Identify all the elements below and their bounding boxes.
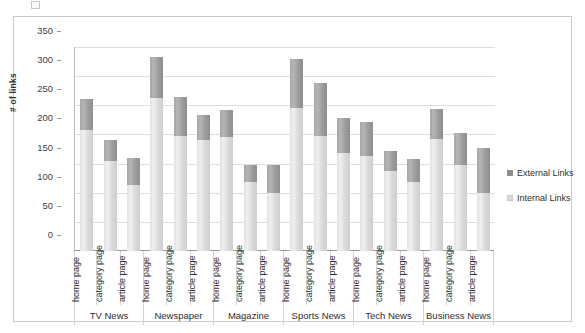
bar-segment-internal-links bbox=[267, 193, 280, 251]
bar-6 bbox=[220, 47, 233, 251]
x-axis-page-label: home page bbox=[211, 257, 221, 302]
bar-segment-external-links bbox=[454, 133, 467, 164]
bar-segment-internal-links bbox=[80, 130, 93, 251]
legend-entry[interactable]: External Links bbox=[507, 167, 585, 178]
bar-segment-internal-links bbox=[407, 182, 420, 251]
bar-segment-internal-links bbox=[104, 161, 117, 251]
x-axis-page-label: home page bbox=[141, 257, 151, 302]
bar-segment-external-links bbox=[337, 118, 350, 153]
legend-label: Internal Links bbox=[517, 193, 571, 203]
x-axis-group-label: Magazine bbox=[228, 310, 269, 321]
y-axis-tick-label: 200 bbox=[11, 113, 53, 123]
bar-segment-external-links bbox=[174, 97, 187, 136]
bar-16 bbox=[454, 47, 467, 251]
y-axis-tickmark bbox=[57, 235, 61, 236]
bar-0 bbox=[80, 47, 93, 251]
bar-segment-internal-links bbox=[127, 185, 140, 251]
x-axis-page-label: home page bbox=[281, 257, 291, 302]
bar-segment-internal-links bbox=[360, 156, 373, 251]
bar-segment-external-links bbox=[267, 165, 280, 192]
bar-segment-internal-links bbox=[314, 136, 327, 251]
bar-5 bbox=[197, 47, 210, 251]
x-axis-group-label: Business News bbox=[426, 310, 491, 321]
x-axis-page-label: category page bbox=[164, 245, 174, 302]
x-axis-page-label: home page bbox=[71, 257, 81, 302]
bar-segment-internal-links bbox=[430, 139, 443, 251]
x-axis-page-label: article page bbox=[327, 255, 337, 302]
bar-segment-external-links bbox=[314, 83, 327, 135]
y-axis-tickmark bbox=[57, 177, 61, 178]
y-axis-tick-label: 0 bbox=[11, 230, 53, 240]
x-axis-page-label: article page bbox=[187, 255, 197, 302]
bar-segment-internal-links bbox=[197, 140, 210, 251]
bar-segment-internal-links bbox=[174, 136, 187, 251]
bar-segment-external-links bbox=[244, 165, 257, 182]
y-axis-tick-label: 350 bbox=[11, 26, 53, 36]
y-axis-tick-label: 300 bbox=[11, 55, 53, 65]
y-axis-tickmark bbox=[57, 148, 61, 149]
bar-segment-internal-links bbox=[220, 137, 233, 251]
bar-segment-external-links bbox=[150, 57, 163, 98]
bar-segment-external-links bbox=[220, 110, 233, 137]
bar-segment-external-links bbox=[127, 158, 140, 185]
bar-segment-internal-links bbox=[150, 98, 163, 251]
bar-segment-external-links bbox=[80, 99, 93, 129]
bar-segment-internal-links bbox=[244, 182, 257, 251]
bar-segment-internal-links bbox=[477, 193, 490, 251]
bar-segment-external-links bbox=[360, 122, 373, 156]
y-axis-tick-label: 150 bbox=[11, 143, 53, 153]
bar-segment-external-links bbox=[407, 159, 420, 182]
y-axis-tickmark bbox=[57, 31, 61, 32]
bar-13 bbox=[384, 47, 397, 251]
x-axis-page-label: category page bbox=[94, 245, 104, 302]
bar-12 bbox=[360, 47, 373, 251]
bar-4 bbox=[174, 47, 187, 251]
x-axis-group-cell: Newspaper bbox=[144, 305, 214, 325]
bar-segment-internal-links bbox=[290, 108, 303, 251]
bar-2 bbox=[127, 47, 140, 251]
bar-segment-external-links bbox=[104, 140, 117, 160]
bar-segment-external-links bbox=[384, 151, 397, 171]
y-axis-tickmark bbox=[57, 118, 61, 119]
bar-segment-external-links bbox=[197, 115, 210, 140]
x-axis-group-cell: Sports News bbox=[284, 305, 354, 325]
y-axis-tickmark bbox=[57, 206, 61, 207]
x-axis-page-label: home page bbox=[421, 257, 431, 302]
bar-11 bbox=[337, 47, 350, 251]
bar-segment-internal-links bbox=[454, 165, 467, 251]
legend-swatch-external bbox=[507, 170, 513, 176]
x-axis-group-labels: TV NewsNewspaperMagazineSports NewsTech … bbox=[74, 305, 494, 325]
y-axis-tick-label: 50 bbox=[11, 201, 53, 211]
chart-frame: 350300250200150100500 # of links home pa… bbox=[13, 16, 572, 322]
bar-8 bbox=[267, 47, 280, 251]
bar-9 bbox=[290, 47, 303, 251]
bar-14 bbox=[407, 47, 420, 251]
x-axis-group-cell: TV News bbox=[74, 305, 144, 325]
y-axis-ticklabels: 350300250200150100500 bbox=[14, 17, 53, 281]
x-axis-group-label: Tech News bbox=[365, 310, 411, 321]
x-axis-group-label: Newspaper bbox=[154, 310, 202, 321]
x-axis-group-label: Sports News bbox=[292, 310, 346, 321]
y-axis-tickmark bbox=[57, 89, 61, 90]
bar-1 bbox=[104, 47, 117, 251]
scan-artifact bbox=[31, 1, 40, 9]
bar-segment-external-links bbox=[290, 59, 303, 109]
legend-entry[interactable]: Internal Links bbox=[507, 192, 585, 203]
x-axis-page-label: category page bbox=[374, 245, 384, 302]
bar-17 bbox=[477, 47, 490, 251]
y-axis-title: # of links bbox=[8, 73, 18, 112]
bar-10 bbox=[314, 47, 327, 251]
x-axis-group-cell: Business News bbox=[424, 305, 494, 325]
bar-7 bbox=[244, 47, 257, 251]
x-axis-page-label: home page bbox=[351, 257, 361, 302]
x-axis-page-label: category page bbox=[304, 245, 314, 302]
bar-segment-external-links bbox=[430, 109, 443, 139]
bar-15 bbox=[430, 47, 443, 251]
x-axis-page-label: article page bbox=[397, 255, 407, 302]
x-axis-group-cell: Magazine bbox=[214, 305, 284, 325]
x-axis-group-cell: Tech News bbox=[354, 305, 424, 325]
plot-area bbox=[74, 47, 494, 251]
x-axis-cell: article page bbox=[471, 251, 494, 305]
y-axis-tick-label: 100 bbox=[11, 172, 53, 182]
bar-segment-internal-links bbox=[384, 171, 397, 251]
